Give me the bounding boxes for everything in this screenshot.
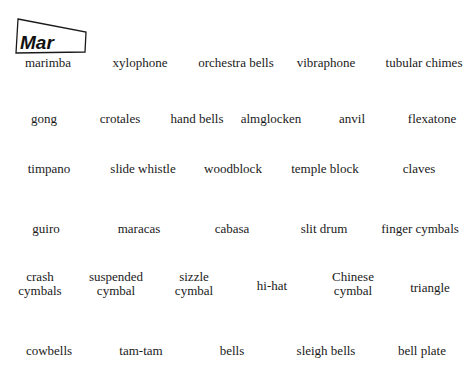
label-cowbells: cowbells: [26, 344, 72, 358]
svg-text:Mar: Mar: [20, 32, 55, 53]
pictogram-chart: Mar marimba Xyle xylophone Glsp orchestr…: [0, 0, 476, 374]
label-line: Chinese: [332, 269, 374, 284]
label-slit-drum: slit drum: [301, 222, 348, 236]
label-flexatone: flexatone: [408, 112, 456, 126]
label-line: crash: [26, 269, 53, 284]
label-orchestra-bells: orchestra bells: [198, 56, 273, 70]
label-line: sizzle: [179, 269, 209, 284]
label-hand-bells: hand bells: [170, 112, 223, 126]
label-temple-block: temple block: [291, 162, 359, 176]
label-hi-hat: hi-hat: [257, 279, 287, 293]
label-gong: gong: [31, 112, 57, 126]
label-claves: claves: [403, 162, 435, 176]
label-guiro: guiro: [32, 222, 59, 236]
label-tubular-chimes: tubular chimes: [386, 56, 463, 70]
label-maracas: maracas: [118, 222, 161, 236]
label-almglocken: almglocken: [241, 112, 302, 126]
label-line: cymbal: [175, 283, 213, 298]
label-slide-whistle: slide whistle: [110, 162, 175, 176]
label-triangle: triangle: [410, 281, 450, 295]
label-line: cymbals: [18, 283, 61, 298]
label-suspended-cymbal: suspended cymbal: [89, 270, 143, 298]
label-vibraphone: vibraphone: [297, 56, 355, 70]
label-finger-cymbals: finger cymbals: [381, 222, 459, 236]
label-tam-tam: tam-tam: [119, 344, 162, 358]
label-line: cymbal: [334, 283, 372, 298]
label-line: cymbal: [97, 283, 135, 298]
label-crash-cymbals: crash cymbals: [18, 270, 61, 298]
label-woodblock: woodblock: [204, 162, 262, 176]
label-marimba: marimba: [25, 56, 71, 70]
label-bell-plate: bell plate: [398, 344, 446, 358]
label-line: suspended: [89, 269, 143, 284]
label-chinese-cymbal: Chinese cymbal: [332, 270, 374, 298]
label-sizzle-cymbal: sizzle cymbal: [175, 270, 213, 298]
label-timpano: timpano: [28, 162, 71, 176]
label-crotales: crotales: [100, 112, 140, 126]
label-sleigh-bells: sleigh bells: [297, 344, 356, 358]
label-cabasa: cabasa: [215, 222, 250, 236]
label-xylophone: xylophone: [113, 56, 168, 70]
label-anvil: anvil: [339, 112, 365, 126]
label-bells: bells: [220, 344, 245, 358]
